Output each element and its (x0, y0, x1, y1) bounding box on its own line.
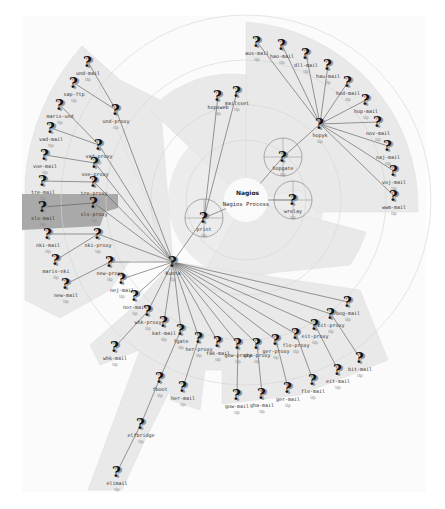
host-label: elimail (106, 480, 127, 486)
question-mark-icon[interactable]: ? (252, 335, 261, 353)
question-mark-icon[interactable]: ? (38, 172, 47, 190)
question-mark-icon[interactable]: ? (89, 194, 98, 212)
host-status: Up (57, 120, 63, 125)
host-status: Up (312, 340, 318, 345)
question-mark-icon[interactable]: ? (283, 379, 292, 397)
question-mark-icon[interactable]: ? (301, 45, 310, 63)
host-label: Kusta (165, 270, 180, 276)
host-label: elfbridge (127, 432, 154, 439)
host-label: nki-proxy (84, 242, 111, 249)
host-label: sls-mail (31, 215, 55, 221)
question-mark-icon[interactable]: ? (213, 87, 222, 105)
question-mark-icon[interactable]: ? (155, 369, 164, 387)
question-mark-icon[interactable]: ? (110, 338, 119, 356)
host-status: Up (235, 359, 241, 364)
host-label: voj-mail (382, 179, 406, 186)
host-status: Up (215, 357, 221, 362)
host-label: hao-mail (270, 53, 294, 59)
host-status: Up (293, 349, 299, 354)
question-mark-icon[interactable]: ? (38, 198, 47, 216)
question-mark-icon[interactable]: ? (178, 378, 187, 396)
host-label: flo-proxy (282, 342, 309, 349)
question-mark-icon[interactable]: ? (233, 335, 242, 353)
host-status: Up (317, 139, 323, 144)
host-label: hopgate (272, 165, 293, 172)
host-label: nki-mail (36, 242, 60, 248)
host-status: Up (285, 403, 291, 408)
question-mark-icon[interactable]: ? (389, 187, 398, 205)
question-mark-icon[interactable]: ? (213, 333, 222, 351)
host-label: new-mail (54, 292, 78, 298)
host-status: Up (391, 211, 397, 216)
question-mark-icon[interactable]: ? (361, 91, 370, 109)
host-label: dll-mail (294, 62, 318, 68)
host-status: Up (259, 409, 265, 414)
question-mark-icon[interactable]: ? (257, 385, 266, 403)
question-mark-icon[interactable]: ? (69, 74, 78, 92)
host-label: hopyk (312, 132, 327, 139)
question-mark-icon[interactable]: ? (168, 253, 177, 271)
host-status: Up (71, 98, 77, 103)
question-mark-icon[interactable]: ? (112, 463, 121, 481)
question-mark-icon[interactable]: ? (291, 325, 300, 343)
question-mark-icon[interactable]: ? (232, 386, 241, 404)
host-status: Up (138, 439, 144, 444)
question-mark-icon[interactable]: ? (389, 162, 398, 180)
question-mark-icon[interactable]: ? (199, 209, 208, 227)
question-mark-icon[interactable]: ? (288, 191, 297, 209)
question-mark-icon[interactable]: ? (43, 225, 52, 243)
question-mark-icon[interactable]: ? (343, 73, 352, 91)
question-mark-icon[interactable]: ? (308, 371, 317, 389)
host-status: Up (113, 125, 119, 130)
question-mark-icon[interactable]: ? (55, 96, 64, 114)
host-status: Up (112, 362, 118, 367)
host-label: hau-mail (316, 73, 340, 79)
question-mark-icon[interactable]: ? (136, 415, 145, 433)
question-mark-icon[interactable]: ? (89, 173, 98, 191)
host-status: Up (53, 275, 59, 280)
question-mark-icon[interactable]: ? (46, 119, 55, 137)
question-mark-icon[interactable]: ? (159, 313, 168, 331)
question-mark-icon[interactable]: ? (90, 154, 99, 172)
question-mark-icon[interactable]: ? (315, 115, 324, 133)
host-status: Up (325, 80, 331, 85)
question-mark-icon[interactable]: ? (271, 331, 280, 349)
question-mark-icon[interactable]: ? (323, 56, 332, 74)
host-label: kat-mail (152, 330, 176, 336)
question-mark-icon[interactable]: ? (94, 136, 103, 154)
host-status: Up (234, 107, 240, 112)
question-mark-icon[interactable]: ? (355, 349, 364, 367)
question-mark-icon[interactable]: ? (83, 53, 92, 71)
question-mark-icon[interactable]: ? (326, 305, 335, 323)
question-mark-icon[interactable]: ? (40, 146, 49, 164)
question-mark-icon[interactable]: ? (143, 302, 152, 320)
host-label: bit-proxy (317, 322, 344, 329)
question-mark-icon[interactable]: ? (278, 148, 287, 166)
question-mark-icon[interactable]: ? (373, 113, 382, 131)
question-mark-icon[interactable]: ? (277, 36, 286, 54)
question-mark-icon[interactable]: ? (111, 101, 120, 119)
question-mark-icon[interactable]: ? (252, 33, 261, 51)
host-label: maris-nki (42, 268, 69, 274)
network-status-map: Nagios Nagios Process ??printUp??hopgate… (0, 0, 445, 509)
host-status: Up (290, 215, 296, 220)
question-mark-icon[interactable]: ? (383, 137, 392, 155)
host-status: Up (196, 353, 202, 358)
question-mark-icon[interactable]: ? (232, 83, 241, 101)
question-mark-icon[interactable]: ? (130, 287, 139, 305)
question-mark-icon[interactable]: ? (51, 251, 60, 269)
host-status: Up (273, 355, 279, 360)
question-mark-icon[interactable]: ? (61, 275, 70, 293)
host-label: bit-mail (348, 366, 372, 372)
question-mark-icon[interactable]: ? (117, 270, 126, 288)
host-status: Up (91, 218, 97, 223)
question-mark-icon[interactable]: ? (333, 361, 342, 379)
question-mark-icon[interactable]: ? (343, 293, 352, 311)
question-mark-icon[interactable]: ? (93, 225, 102, 243)
host-label: sls-proxy (80, 211, 107, 218)
host-label: bog-mail (336, 310, 360, 317)
question-mark-icon[interactable]: ? (194, 329, 203, 347)
question-mark-icon[interactable]: ? (176, 321, 185, 339)
host-label: und-proxy (102, 118, 129, 125)
question-mark-icon[interactable]: ? (105, 253, 114, 271)
